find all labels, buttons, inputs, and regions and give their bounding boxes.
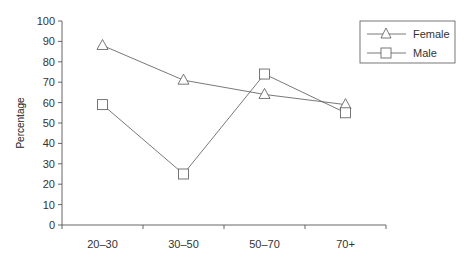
triangle-marker-icon xyxy=(178,74,189,84)
y-tick-label: 80 xyxy=(43,56,55,68)
square-marker-icon xyxy=(381,48,391,58)
x-tick-label: 50–70 xyxy=(249,238,280,250)
x-axis: 20–3030–5050–7070+ xyxy=(62,225,386,250)
square-marker-icon xyxy=(179,169,189,179)
square-marker-icon xyxy=(260,69,270,79)
triangle-marker-icon xyxy=(97,39,108,49)
y-tick-label: 30 xyxy=(43,158,55,170)
x-tick-label: 70+ xyxy=(336,238,355,250)
series-female xyxy=(97,39,351,108)
square-marker-icon xyxy=(98,100,108,110)
y-tick-label: 70 xyxy=(43,76,55,88)
y-tick-label: 60 xyxy=(43,97,55,109)
square-marker-icon xyxy=(341,108,351,118)
legend: Female Male xyxy=(360,21,455,63)
y-tick-label: 20 xyxy=(43,178,55,190)
triangle-marker-icon xyxy=(340,99,351,109)
series-layer xyxy=(97,39,351,179)
y-axis: 0102030405060708090100 xyxy=(37,15,62,231)
line-chart: 0102030405060708090100 20–3030–5050–7070… xyxy=(0,0,467,261)
series-male xyxy=(98,69,351,179)
legend-label-male: Male xyxy=(413,47,437,59)
x-tick-label: 30–50 xyxy=(168,238,199,250)
y-tick-label: 50 xyxy=(43,117,55,129)
legend-label-female: Female xyxy=(413,28,450,40)
y-tick-label: 10 xyxy=(43,199,55,211)
x-tick-label: 20–30 xyxy=(87,238,118,250)
y-axis-title: Percentage xyxy=(15,97,26,149)
y-tick-label: 40 xyxy=(43,137,55,149)
y-tick-label: 0 xyxy=(49,219,55,231)
y-tick-label: 100 xyxy=(37,15,55,27)
y-tick-label: 90 xyxy=(43,35,55,47)
